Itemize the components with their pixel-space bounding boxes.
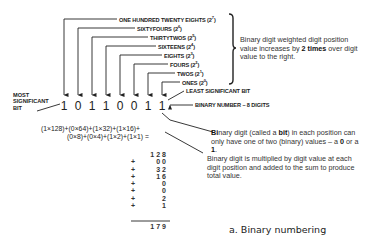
bit-note: Binary digit (called a bit) in each posi… [211, 129, 361, 155]
label-32s: THIRTYTWOS (25) [150, 33, 196, 41]
label-4s: FOURS (22) [170, 60, 199, 68]
figure-caption: a. Binary numbering [229, 224, 326, 235]
digit: 0 [129, 99, 139, 113]
sum-total: 179 [138, 223, 168, 230]
digit: 1 [87, 99, 97, 113]
most-significant-bit-label: MOST SIGNIFICANT BIT [13, 92, 53, 111]
label-16s: SIXTEENS (24) [158, 42, 195, 50]
digit: 1 [157, 99, 167, 113]
label-64s: SIXTYFOURS (26) [137, 24, 182, 32]
digit: 0 [73, 99, 83, 113]
least-significant-bit-label: LEAST SIGNIFICANT BIT [186, 88, 250, 94]
digit: 1 [59, 99, 69, 113]
label-128s: ONE HUNDRED TWENTY EIGHTS (27) [119, 15, 216, 23]
label-1s: ONES (20) [182, 78, 208, 86]
label-8s: EIGHTS (23) [164, 51, 194, 59]
sum-values: 128 00 32 16 0 0 2 1 [138, 151, 168, 209]
digit: 1 [101, 99, 111, 113]
label-2s: TWOS (21) [177, 69, 204, 77]
digit: 0 [115, 99, 125, 113]
multiply-note: Binary digit is multiplied by digit valu… [207, 155, 357, 181]
digit: 1 [143, 99, 153, 113]
formula-line-2: (0×8)+(0×4)+(1×2)+(1×1) = [67, 133, 149, 140]
weight-note: Binary digit weighted digit position val… [240, 36, 360, 62]
binary-number-label: BINARY NUMBER – 8 DIGITS [195, 102, 269, 108]
formula-line-1: (1×128)+(0×64)+(1×32)+(1×16)+ [41, 125, 140, 132]
